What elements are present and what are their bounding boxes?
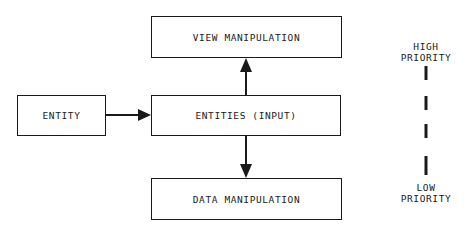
arrowhead-right-icon xyxy=(138,109,151,121)
node-label: VIEW MANIPULATION xyxy=(193,32,300,43)
node-label: DATA MANIPULATION xyxy=(193,194,300,205)
arrowhead-up-icon xyxy=(240,58,252,72)
node-entity: ENTITY xyxy=(17,95,106,136)
arrowhead-down-icon xyxy=(240,164,252,178)
low-label-line2: PRIORITY xyxy=(396,193,456,204)
low-priority-label: LOW PRIORITY xyxy=(396,182,456,204)
node-data-manipulation: DATA MANIPULATION xyxy=(151,178,342,220)
node-label: ENTITIES (INPUT) xyxy=(195,110,296,121)
high-label-line2: PRIORITY xyxy=(396,52,456,63)
node-view-manipulation: VIEW MANIPULATION xyxy=(151,16,342,58)
low-label-line1: LOW xyxy=(396,182,456,193)
node-label: ENTITY xyxy=(43,110,81,121)
high-label-line1: HIGH xyxy=(396,41,456,52)
high-priority-label: HIGH PRIORITY xyxy=(396,41,456,63)
node-entities-input: ENTITIES (INPUT) xyxy=(151,95,341,136)
